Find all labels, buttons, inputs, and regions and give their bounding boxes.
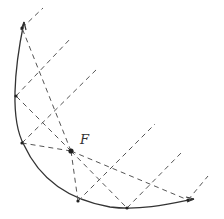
focus-rays bbox=[16, 28, 188, 208]
parabola-curve bbox=[15, 22, 194, 208]
focus-label: F bbox=[80, 132, 89, 147]
curve-points bbox=[14, 26, 189, 209]
reflected-rays bbox=[16, 8, 208, 208]
diagram-canvas bbox=[0, 0, 224, 219]
focus-point bbox=[68, 148, 73, 153]
